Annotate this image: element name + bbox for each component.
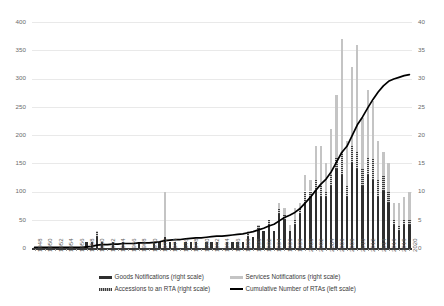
bar-segment-accessions [330, 175, 332, 186]
right-axis-tick-label: 20 [418, 132, 440, 138]
bar-segment-goods [294, 225, 296, 248]
x-axis-tick [45, 249, 46, 251]
x-axis-tick-label: 1988 [245, 238, 251, 252]
bar-segment-goods [96, 237, 98, 248]
right-axis-tick-label: 35 [418, 47, 440, 53]
x-axis-tick [232, 249, 233, 251]
bar-segment-accessions [356, 152, 358, 169]
x-axis-tick [389, 249, 390, 251]
bar-segment-accessions [346, 186, 348, 197]
x-axis-tick [284, 249, 285, 251]
x-axis-tick [55, 249, 56, 251]
x-axis-tick [399, 249, 400, 251]
stacked-bar [361, 118, 363, 248]
x-axis-tick-label: 2014 [381, 238, 387, 252]
stacked-bar [294, 208, 296, 248]
legend-swatch-accessions-icon [99, 288, 112, 291]
x-axis-tick-label: 1998 [297, 238, 303, 252]
x-axis-tick [76, 249, 77, 251]
right-axis-tick-label: 15 [418, 160, 440, 166]
x-axis-tick-label: 1970 [152, 238, 158, 252]
gridline [32, 192, 412, 193]
bar-segment-accessions [351, 146, 353, 163]
gridline [32, 22, 412, 23]
legend-item-goods[interactable]: Goods Notifications (right scale) [99, 274, 204, 280]
x-axis-tick [118, 249, 119, 251]
stacked-bar [283, 208, 285, 248]
bar-segment-accessions [325, 192, 327, 198]
x-axis-tick [149, 249, 150, 251]
bar-segment-accessions [315, 180, 317, 191]
left-axis-tick-label: 200 [2, 132, 26, 138]
bar-segment-goods [356, 169, 358, 248]
bar-segment-services [341, 39, 343, 152]
bar-segment-accessions [268, 220, 270, 226]
x-axis-tick [160, 249, 161, 251]
x-axis-tick-label: 2016 [391, 238, 397, 252]
bar-segment-accessions [278, 208, 280, 214]
legend-label-services: Services Notifications (right scale) [246, 274, 341, 280]
x-axis-tick [191, 249, 192, 251]
rta-notifications-chart: 050100150200250300350400 051015202530354… [0, 0, 444, 306]
x-axis-tick-label: 1964 [120, 238, 126, 252]
stacked-bar [252, 237, 254, 248]
bar-segment-accessions [299, 208, 301, 214]
bar-segment-services [289, 225, 291, 231]
x-axis-tick-label: 1966 [131, 238, 137, 252]
x-axis-tick-label: 1952 [58, 238, 64, 252]
x-axis-tick [326, 249, 327, 251]
bar-segment-accessions [398, 225, 400, 231]
x-axis-tick-label: 1984 [224, 238, 230, 252]
x-axis-tick-label: 2002 [318, 238, 324, 252]
x-axis-tick [305, 249, 306, 251]
bar-segment-services [382, 152, 384, 175]
bar-segment-services [377, 141, 379, 181]
left-axis-tick-label: 400 [2, 19, 26, 25]
right-axis-tick-label: 10 [418, 188, 440, 194]
legend-item-services[interactable]: Services Notifications (right scale) [230, 274, 340, 280]
bar-segment-services [372, 101, 374, 158]
legend-swatch-cumulative-icon [230, 288, 243, 290]
stacked-bar [341, 39, 343, 248]
bar-segment-services [304, 175, 306, 192]
bar-segment-accessions [309, 192, 311, 198]
legend-label-accessions: Accessions to an RTA (right scale) [115, 286, 211, 292]
x-axis-tick [274, 249, 275, 251]
legend-item-accessions[interactable]: Accessions to an RTA (right scale) [99, 286, 210, 292]
x-axis-tick [347, 249, 348, 251]
bar-segment-goods [252, 237, 254, 248]
bar-segment-goods [341, 175, 343, 248]
x-axis-tick [139, 249, 140, 251]
x-axis-tick-label: 1996 [287, 238, 293, 252]
bar-segment-accessions [382, 175, 384, 192]
bar-segment-accessions [304, 192, 306, 203]
bar-segment-accessions [294, 220, 296, 226]
stacked-bar [346, 141, 348, 248]
x-axis-tick [357, 249, 358, 251]
legend-label-cumulative: Cumulative Number of RTAs (left scale) [246, 286, 356, 292]
x-axis-tick-label: 2006 [339, 238, 345, 252]
bar-segment-goods [262, 231, 264, 248]
x-axis-tick [170, 249, 171, 251]
bar-segment-goods [346, 197, 348, 248]
right-axis-tick-label: 30 [418, 75, 440, 81]
left-axis-tick-label: 250 [2, 104, 26, 110]
bar-segment-services [283, 208, 285, 214]
x-axis-tick-label: 1968 [141, 238, 147, 252]
bar-segment-services [320, 146, 322, 186]
bar-segment-services [356, 45, 358, 152]
bar-segment-accessions [367, 158, 369, 175]
x-axis-tick-label: 2008 [349, 238, 355, 252]
bar-segment-services [398, 203, 400, 226]
x-axis-tick [368, 249, 369, 251]
gridline [32, 107, 412, 108]
x-axis-tick-label: 1978 [193, 238, 199, 252]
x-axis-tick [87, 249, 88, 251]
bar-segment-goods [325, 197, 327, 248]
bar-segment-services [367, 90, 369, 158]
legend-item-cumulative[interactable]: Cumulative Number of RTAs (left scale) [230, 286, 356, 292]
x-axis-tick-label: 2004 [329, 238, 335, 252]
x-axis-tick-label: 1974 [172, 238, 178, 252]
bar-segment-services [346, 141, 348, 186]
x-axis-tick [264, 249, 265, 251]
